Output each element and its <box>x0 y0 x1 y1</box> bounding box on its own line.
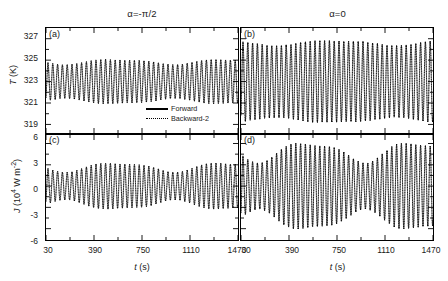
xtick-label-left-1110: 1110 <box>176 245 206 255</box>
panel-label-b: (b) <box>244 29 255 39</box>
panel-label-c: (c) <box>49 135 60 145</box>
ytick-label-321: 321 <box>6 97 38 107</box>
legend-item-backward2: Backward-2 <box>146 114 209 124</box>
ytick-label-327: 327 <box>6 31 38 41</box>
ytick-label-neg6: -6 <box>6 236 38 246</box>
legend-item-forward: Forward <box>146 104 209 114</box>
ytick-label-0: 0 <box>6 184 38 194</box>
legend-line-dotted-icon <box>146 116 168 122</box>
xtick-label-right-30: 30 <box>235 245 257 255</box>
figure-canvas: α=-π/2 α=0 T (K) J (104 W m-2) t (s) t (… <box>0 0 448 281</box>
xtick-label-left-30: 30 <box>37 245 59 255</box>
legend: Forward Backward-2 <box>146 104 209 123</box>
panel-d-plot <box>241 135 433 240</box>
xtick-label-right-390: 390 <box>279 245 305 255</box>
panel-label-d: (d) <box>244 135 255 145</box>
xtick-label-right-1470: 1470 <box>416 245 446 255</box>
column-title-right: α=0 <box>242 8 433 19</box>
panel-label-a: (a) <box>49 29 60 39</box>
panel-a-temperature-alpha-neg-half-pi <box>45 27 239 134</box>
ytick-label-3: 3 <box>6 158 38 168</box>
legend-label-backward2: Backward-2 <box>171 114 209 124</box>
x-axis-title-left: t (s) <box>45 262 239 272</box>
xtick-label-left-750: 750 <box>130 245 156 255</box>
x-axis-title-right: t (s) <box>242 262 433 272</box>
legend-line-solid-icon <box>146 106 168 112</box>
ytick-label-319: 319 <box>6 119 38 129</box>
panel-a-plot <box>46 28 238 133</box>
legend-label-forward: Forward <box>171 104 197 114</box>
xtick-label-left-390: 390 <box>82 245 108 255</box>
panel-b-plot <box>241 28 433 133</box>
panel-c-heatflux-alpha-neg-half-pi <box>45 134 239 241</box>
ytick-label-325: 325 <box>6 53 38 63</box>
xtick-label-right-750: 750 <box>326 245 352 255</box>
ytick-label-6: 6 <box>6 132 38 142</box>
ytick-label-neg3: -3 <box>6 210 38 220</box>
column-title-left: α=-π/2 <box>45 8 239 19</box>
panel-b-temperature-alpha-zero <box>240 27 434 134</box>
ytick-label-323: 323 <box>6 75 38 85</box>
panel-d-heatflux-alpha-zero <box>240 134 434 241</box>
xtick-label-right-1110: 1110 <box>371 245 401 255</box>
panel-c-plot <box>46 135 238 240</box>
